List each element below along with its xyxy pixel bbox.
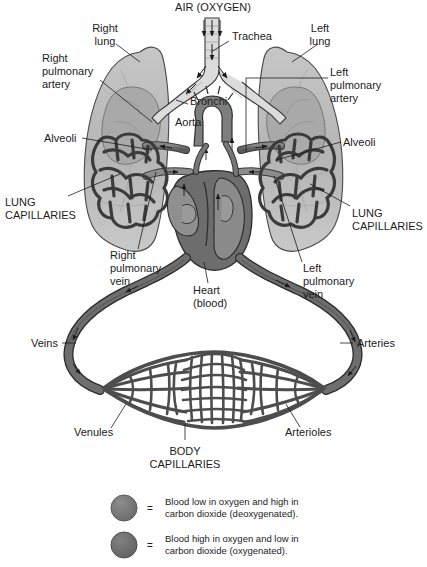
svg-text:CAPILLARIES: CAPILLARIES	[352, 220, 423, 232]
svg-text:Left: Left	[330, 66, 348, 78]
label-arterioles: Arterioles	[285, 426, 332, 438]
svg-text:CAPILLARIES: CAPILLARIES	[5, 209, 76, 221]
legend-swatch-deoxygenated	[111, 495, 137, 521]
svg-text:artery: artery	[330, 92, 359, 104]
svg-text:Right: Right	[42, 52, 68, 64]
svg-text:Right: Right	[92, 22, 118, 34]
legend-line-oxy-1: Blood high in oxygen and low in	[165, 533, 299, 544]
svg-text:LUNG: LUNG	[5, 196, 36, 208]
label-arteries: Arteries	[357, 337, 395, 349]
svg-text:Heart: Heart	[193, 284, 220, 296]
label-aorta: Aorta	[175, 116, 202, 128]
diagram-title: AIR (OXYGEN)	[175, 1, 251, 13]
label-alveoli-right: Alveoli	[44, 132, 76, 144]
svg-text:pulmonary: pulmonary	[42, 65, 94, 77]
svg-text:(blood): (blood)	[193, 297, 227, 309]
legend-equals-deoxygenated: =	[147, 503, 153, 514]
svg-text:CAPILLARIES: CAPILLARIES	[150, 458, 221, 470]
svg-text:BODY: BODY	[169, 445, 201, 457]
legend-equals-oxygenated: =	[147, 540, 153, 551]
svg-text:pulmonary: pulmonary	[303, 275, 355, 287]
circulatory-system-diagram: AIR (OXYGEN) Right lung Trachea Left lun…	[0, 0, 427, 567]
svg-text:Left: Left	[303, 262, 321, 274]
svg-text:artery: artery	[42, 78, 71, 90]
label-right-lung: Right lung	[92, 22, 118, 47]
diagram-canvas: AIR (OXYGEN) Right lung Trachea Left lun…	[0, 0, 427, 567]
legend-line-deoxy-1: Blood low in oxygen and high in	[165, 496, 299, 507]
legend-line-oxy-2: carbon dioxide (oxygenated).	[165, 545, 288, 556]
svg-text:vein: vein	[303, 288, 323, 300]
svg-text:pulmonary: pulmonary	[330, 79, 382, 91]
svg-text:pulmonary: pulmonary	[110, 262, 162, 274]
label-bronchi: Bronchi	[190, 95, 227, 107]
svg-text:Left: Left	[311, 22, 329, 34]
svg-text:Right: Right	[110, 249, 136, 261]
label-alveoli-left: Alveoli	[343, 136, 375, 148]
label-venules: Venules	[74, 426, 114, 438]
svg-text:vein: vein	[110, 275, 130, 287]
label-left-lung: Left lung	[310, 22, 331, 47]
legend-line-deoxy-2: carbon dioxide (deoxygenated).	[165, 508, 298, 519]
label-veins: Veins	[31, 337, 58, 349]
legend-swatch-oxygenated	[111, 532, 137, 558]
svg-text:LUNG: LUNG	[352, 207, 383, 219]
label-trachea: Trachea	[232, 30, 273, 42]
svg-text:lung: lung	[310, 35, 331, 47]
svg-text:lung: lung	[95, 35, 116, 47]
